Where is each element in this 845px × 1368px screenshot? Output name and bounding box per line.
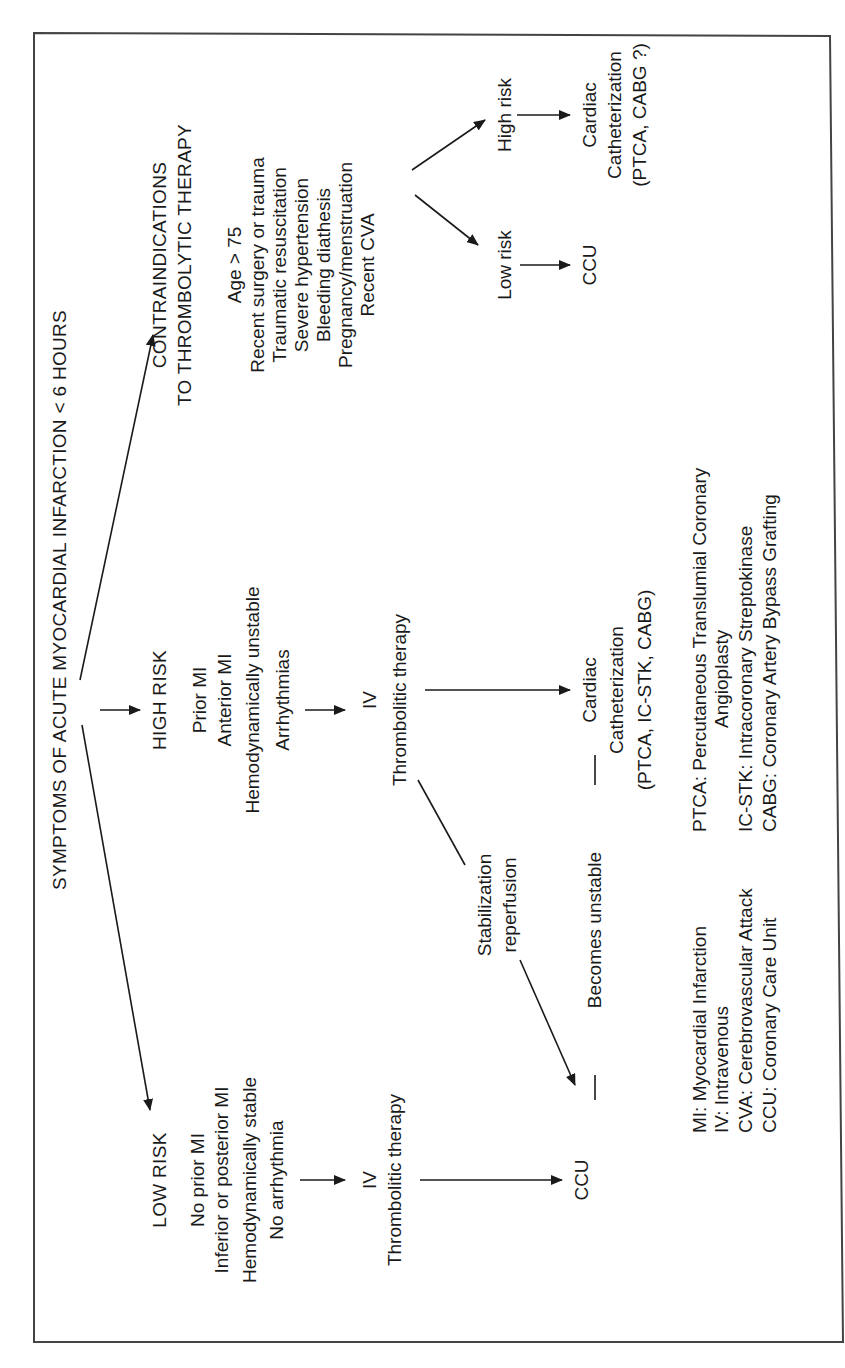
contra-catheterization: Catheterization xyxy=(604,51,626,179)
low-risk-heading: LOW RISK xyxy=(149,1132,171,1227)
contraindication-item: Age > 75 xyxy=(224,227,246,304)
low-risk-criterion: Hemodynamically stable xyxy=(239,1077,261,1283)
low-risk-criterion: No prior MI xyxy=(187,1133,209,1227)
becomes-unstable-label: Becomes unstable xyxy=(584,852,606,1008)
reperfusion-label: reperfusion xyxy=(499,857,521,952)
contra-cardiac: Cardiac xyxy=(579,82,601,147)
contra-high-risk-label: High risk xyxy=(494,78,516,152)
contraindications-subheading: TO THROMBOLYTIC THERAPY xyxy=(174,124,196,406)
legend-item: IC-STK: Intracoronary Streptokinase xyxy=(735,526,757,832)
contraindication-item: Recent CVA xyxy=(357,213,379,316)
high-risk-therapy: Thrombolitic therapy xyxy=(389,614,411,786)
contra-procedures: (PTCA, CABG ?) xyxy=(629,43,651,187)
high-risk-cardiac: Cardiac xyxy=(579,657,601,722)
legend-item: IV: Intravenous xyxy=(711,1006,733,1133)
high-risk-procedures: (PTCA, IC-STK, CABG) xyxy=(634,590,656,791)
high-risk-catheterization: Catheterization xyxy=(606,626,628,754)
legend-item: CVA: Cerebrovascular Attack xyxy=(735,888,757,1133)
arrow-stabilization-to-ccu xyxy=(520,960,575,1085)
contraindication-item: Pregnancy/menstruation xyxy=(335,162,357,368)
contraindication-item: Bleeding diathesis xyxy=(313,188,335,342)
line-therapy-to-stabilization xyxy=(418,780,465,865)
arrow-cva-to-low-risk xyxy=(415,195,478,245)
flowchart-rotated-frame: SYMPTOMS OF ACUTE MYOCARDIAL INFARCTION … xyxy=(0,0,845,1368)
low-risk-criterion: Inferior or posterior MI xyxy=(211,1087,233,1274)
arrow-to-low-risk xyxy=(82,725,150,1110)
high-risk-iv: IV xyxy=(359,691,381,709)
contra-low-risk-label: Low risk xyxy=(494,230,516,300)
high-risk-heading: HIGH RISK xyxy=(149,650,171,750)
high-risk-criterion: Prior MI xyxy=(189,667,211,734)
high-risk-criterion: Hemodynamically unstable xyxy=(242,586,264,813)
contraindications-heading: CONTRAINDICATIONS xyxy=(149,162,171,368)
arrow-cva-to-high-risk xyxy=(412,120,485,170)
stabilization-label: Stabilization xyxy=(474,854,496,956)
legend-item: CABG: Coronary Artery Bypass Grafting xyxy=(759,494,781,832)
low-risk-iv: IV xyxy=(359,1171,381,1189)
low-risk-therapy: Thrombolitic therapy xyxy=(384,1094,406,1266)
contraindication-item: Traumatic resuscitation xyxy=(269,167,291,363)
high-risk-criterion: Anterior MI xyxy=(214,654,236,747)
legend-item: Angioplasty xyxy=(711,630,733,728)
diagram-title: SYMPTOMS OF ACUTE MYOCARDIAL INFARCTION … xyxy=(49,310,71,890)
contra-low-risk-ccu: CCU xyxy=(579,244,601,285)
legend-item: PTCA: Percutaneous Translumial Coronary xyxy=(689,468,711,832)
legend-item: CCU: Coronary Care Unit xyxy=(759,918,781,1133)
low-risk-criterion: No arrhythmia xyxy=(266,1120,288,1239)
contraindication-item: Severe hypertension xyxy=(291,178,313,352)
contraindication-item: Recent surgery or trauma xyxy=(247,157,269,372)
high-risk-criterion: Arrhythmias xyxy=(272,649,294,750)
low-risk-ccu: CCU xyxy=(571,1159,593,1200)
legend-item: MI: Myocardial Infarction xyxy=(689,926,711,1133)
arrow-to-contraindications xyxy=(80,335,153,680)
